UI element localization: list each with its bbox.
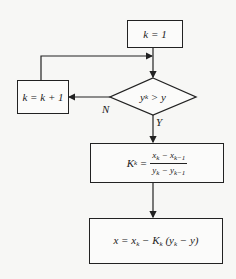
node-decision: yk > y	[110, 78, 196, 115]
slope-eq: =	[137, 157, 147, 169]
node-slope: Kk = xk − xk−1 yk − yk−1	[90, 143, 224, 183]
node-init: k = 1	[127, 20, 183, 48]
result-formula: x = xk − Kk (yk − y)	[113, 234, 198, 248]
slope-numerator: xk − xk−1	[150, 150, 187, 164]
slope-fraction: xk − xk−1 yk − yk−1	[150, 150, 187, 177]
slope-lhs: K	[127, 157, 134, 169]
edge-label-yes: Y	[156, 116, 162, 128]
slope-denominator: yk − yk−1	[150, 164, 187, 177]
node-increment-text: k = k + 1	[22, 91, 63, 103]
node-init-text: k = 1	[143, 28, 166, 40]
edge-loop-back	[41, 56, 152, 80]
node-result: x = xk − Kk (yk − y)	[89, 218, 223, 264]
decision-rhs: y	[161, 91, 166, 103]
node-increment: k = k + 1	[17, 80, 69, 114]
edge-label-no: N	[102, 103, 109, 115]
decision-op: >	[148, 91, 161, 103]
